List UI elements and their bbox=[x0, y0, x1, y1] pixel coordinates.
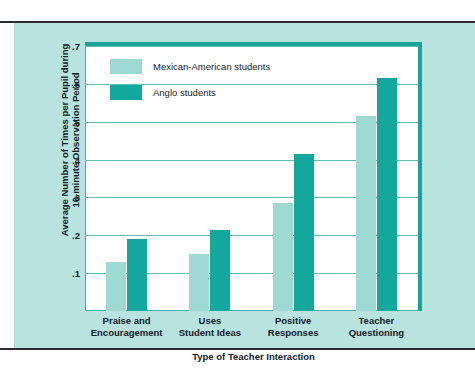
bar bbox=[127, 239, 147, 311]
bar bbox=[377, 78, 397, 311]
gridline bbox=[85, 46, 418, 47]
y-axis-tick-label: .3 bbox=[72, 192, 80, 203]
bar bbox=[210, 230, 230, 311]
bar bbox=[356, 116, 376, 311]
y-axis-line bbox=[85, 46, 86, 311]
chart-panel: Average Number of Times per Pupil during… bbox=[14, 23, 475, 348]
y-axis-tick-label: .1 bbox=[72, 268, 80, 279]
y-axis-tick-label: .2 bbox=[72, 230, 80, 241]
legend-swatch-icon-mexican-american bbox=[110, 59, 142, 74]
y-axis-tick-label: .7 bbox=[72, 41, 80, 52]
legend-item-mexican-american: Mexican-American students bbox=[110, 59, 270, 74]
legend-label-mexican-american: Mexican-American students bbox=[153, 61, 270, 72]
y-axis-title: Average Number of Times per Pupil during… bbox=[54, 25, 88, 255]
x-axis-tick-label: TeacherQuestioning bbox=[321, 315, 431, 339]
bar bbox=[294, 154, 314, 311]
legend: Mexican-American students Anglo students bbox=[110, 59, 270, 100]
x-axis-tick-label-line: Questioning bbox=[321, 327, 431, 339]
bar bbox=[189, 254, 209, 311]
bar bbox=[106, 262, 126, 311]
y-axis-tick-label: .4 bbox=[72, 154, 80, 165]
legend-item-anglo: Anglo students bbox=[110, 85, 270, 100]
figure: Average Number of Times per Pupil during… bbox=[0, 0, 475, 370]
y-axis-title-line-2: 10-minute Observation Period bbox=[71, 72, 82, 207]
x-axis-title: Type of Teacher Interaction bbox=[85, 351, 422, 362]
y-axis-tick-label: .5 bbox=[72, 116, 80, 127]
legend-label-anglo: Anglo students bbox=[153, 87, 216, 98]
bar bbox=[273, 203, 293, 311]
x-axis-tick-label-line: Teacher bbox=[321, 315, 431, 327]
y-axis-title-line-1: Average Number of Times per Pupil during bbox=[60, 44, 71, 237]
y-axis-tick-label: .6 bbox=[72, 78, 80, 89]
legend-swatch-icon-anglo bbox=[110, 85, 142, 100]
bottom-divider-rule bbox=[0, 348, 475, 350]
